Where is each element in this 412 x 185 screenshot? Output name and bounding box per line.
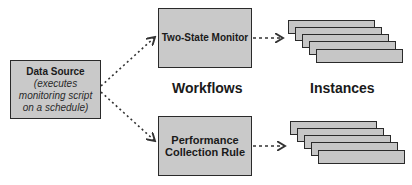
two-state-monitor-box: Two-State Monitor: [158, 8, 252, 68]
data-source-box: Data Source (executes monitoring script …: [10, 60, 101, 119]
workflows-label: Workflows: [172, 80, 243, 96]
performance-collection-rule-box: Performance Collection Rule: [158, 116, 252, 176]
instance-bar: [316, 49, 403, 63]
arrow-to-rule: [101, 92, 155, 141]
rule-title-line-1: Performance: [171, 134, 238, 146]
data-source-title: Data Source: [26, 66, 84, 78]
instance-bar: [318, 150, 405, 164]
arrow-to-monitor: [101, 37, 155, 86]
data-source-subtitle-3: on a schedule): [23, 102, 89, 114]
data-source-subtitle-2: monitoring script: [19, 90, 92, 102]
rule-title-line-2: Collection Rule: [165, 146, 245, 158]
two-state-monitor-title: Two-State Monitor: [162, 32, 248, 44]
instances-label: Instances: [310, 80, 375, 96]
data-source-subtitle-1: (executes: [34, 78, 77, 90]
